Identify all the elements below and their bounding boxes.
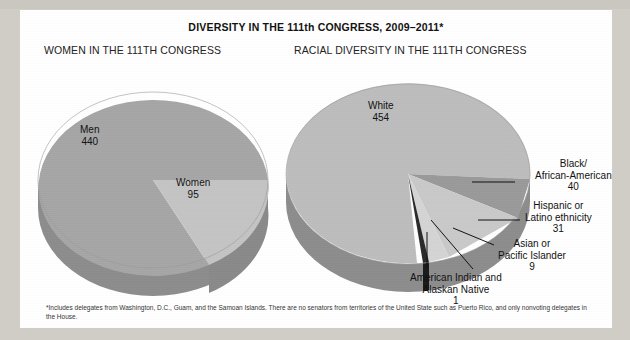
callout-asian-pacific-islander: Asian or Pacific Islander 9: [498, 238, 566, 273]
pie-label-women: Women 95: [176, 177, 210, 200]
page-top-strip: [0, 0, 630, 9]
callout-hispanic-value: 31: [525, 223, 592, 235]
callout-hispanic-latino: Hispanic or Latino ethnicity 31: [525, 200, 592, 235]
callout-asian-line1: Asian or: [498, 238, 566, 250]
figure-title: DIVERSITY IN THE 111th CONGRESS, 2009–20…: [20, 21, 612, 33]
figure-panel: DIVERSITY IN THE 111th CONGRESS, 2009–20…: [20, 10, 612, 328]
callout-black-african-american: Black/ African-American 40: [535, 158, 612, 193]
callout-black-line1: Black/: [535, 158, 612, 170]
callout-asian-line2: Pacific Islander: [498, 250, 566, 262]
pie-label-men: Men 440: [80, 124, 99, 147]
figure-footnote: *Includes delegates from Washington, D.C…: [46, 303, 591, 321]
chart-subtitle-racial: RACIAL DIVERSITY IN THE 111TH CONGRESS: [294, 44, 527, 56]
callout-aian-line1: American Indian and: [410, 272, 502, 284]
callout-asian-value: 9: [498, 261, 566, 273]
callout-hispanic-line2: Latino ethnicity: [525, 212, 592, 224]
pie-label-white-value: 454: [368, 112, 394, 124]
pie-label-men-value: 440: [80, 136, 99, 148]
callout-black-value: 40: [535, 181, 612, 193]
pie-chart-women: Men 440 Women 95: [28, 62, 278, 292]
callout-american-indian-alaskan-native: American Indian and Alaskan Native 1: [410, 272, 502, 307]
pie-label-men-name: Men: [80, 124, 99, 136]
pie-label-white-name: White: [368, 100, 394, 112]
callout-aian-line2: Alaskan Native: [410, 284, 502, 296]
pie-label-white: White 454: [368, 100, 394, 123]
pie-label-women-value: 95: [176, 189, 210, 201]
chart-subtitle-women: WOMEN IN THE 111TH CONGRESS: [44, 44, 221, 56]
pie-label-women-name: Women: [176, 177, 210, 189]
callout-black-line2: African-American: [535, 170, 612, 182]
pie-women-svg: [28, 62, 278, 292]
callout-hispanic-line1: Hispanic or: [525, 200, 592, 212]
